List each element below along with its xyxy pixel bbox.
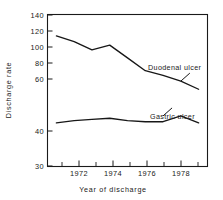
x-axis-tick-labels: 1972 1974 1976 1978 [70, 169, 190, 178]
x-tick-label: 1978 [172, 169, 190, 178]
y-tick-label: 60 [35, 75, 44, 84]
y-tick-label: 40 [35, 127, 44, 136]
plot-frame [48, 15, 208, 167]
series-label-gastric-ulcer: Gastric ulcer [150, 112, 195, 121]
discharge-rate-line-chart: 140 120 100 80 60 40 30 1972 1974 1976 1… [0, 0, 223, 200]
x-tick-label: 1976 [138, 169, 156, 178]
y-tick-label: 100 [30, 43, 44, 52]
y-axis-title: Discharge rate [4, 62, 13, 119]
duodenal-ulcer-leader-line [181, 73, 190, 81]
y-axis-tick-labels: 140 120 100 80 60 40 30 [30, 11, 44, 171]
x-tick-label: 1972 [70, 169, 88, 178]
y-tick-label: 120 [30, 27, 44, 36]
x-tick-label: 1974 [104, 169, 122, 178]
x-axis-ticks [62, 161, 198, 167]
series-label-duodenal-ulcer: Duodenal ulcer [148, 63, 202, 72]
y-tick-label: 30 [35, 162, 44, 171]
chart-figure: 140 120 100 80 60 40 30 1972 1974 1976 1… [0, 0, 223, 200]
y-axis-ticks [48, 15, 53, 166]
x-axis-title: Year of discharge [79, 185, 147, 194]
y-tick-label: 80 [35, 59, 44, 68]
y-tick-label: 140 [30, 11, 44, 20]
